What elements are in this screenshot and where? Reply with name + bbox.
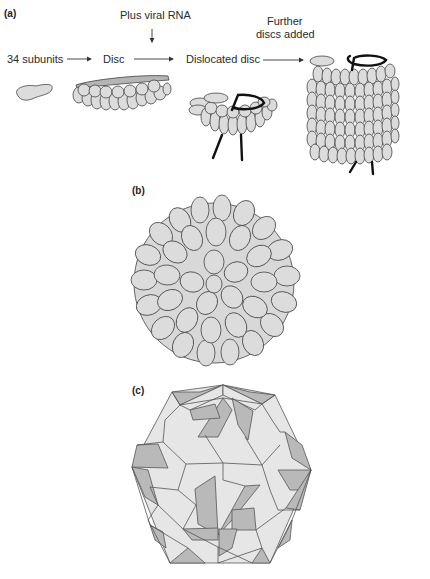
spherical-virus-illustration — [131, 195, 300, 366]
dislocated-disc-illustration — [189, 93, 277, 160]
disc-illustration — [73, 76, 171, 110]
icosahedral-capsid-illustration — [132, 385, 311, 563]
single-subunit — [17, 84, 53, 100]
process-arrows — [67, 29, 303, 60]
helical-rod-illustration — [307, 56, 399, 174]
figure-canvas — [0, 0, 430, 579]
